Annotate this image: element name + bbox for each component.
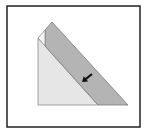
diagram-canvas	[0, 0, 146, 133]
fold-diagram	[0, 0, 146, 133]
